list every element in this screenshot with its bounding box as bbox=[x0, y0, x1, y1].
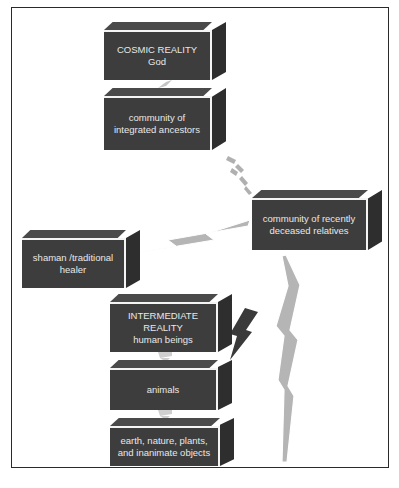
box-side bbox=[212, 22, 226, 80]
node-line-2: deceased relatives bbox=[269, 225, 348, 237]
box-side bbox=[212, 88, 226, 150]
node-shaman-healer: shaman /traditional healer bbox=[22, 230, 140, 288]
node-title: INTERMEDIATE REALITY bbox=[114, 310, 212, 334]
node-integrated-ancestors: community of integrated ancestors bbox=[104, 88, 226, 150]
node-line-2: and inanimate objects bbox=[118, 447, 210, 459]
box-side bbox=[218, 360, 232, 410]
box-face: shaman /traditional healer bbox=[22, 238, 126, 288]
box-face: community of integrated ancestors bbox=[104, 96, 212, 150]
node-subtitle: human beings bbox=[133, 334, 193, 346]
node-line-1: shaman /traditional bbox=[33, 252, 113, 264]
box-top bbox=[110, 360, 218, 368]
node-line-1: community of bbox=[129, 112, 186, 124]
box-top bbox=[110, 294, 218, 302]
box-top bbox=[104, 22, 212, 30]
box-side bbox=[218, 294, 232, 352]
node-subtitle: God bbox=[148, 56, 166, 68]
box-side bbox=[126, 230, 140, 288]
box-top bbox=[252, 190, 368, 198]
node-recently-deceased-relatives: community of recently deceased relatives bbox=[252, 190, 382, 250]
node-line-2: healer bbox=[60, 264, 86, 276]
bolt-relatives-shaman bbox=[130, 220, 250, 254]
node-earth-nature: earth, nature, plants, and inanimate obj… bbox=[110, 418, 234, 466]
box-side bbox=[220, 418, 234, 466]
box-face: community of recently deceased relatives bbox=[252, 198, 368, 250]
node-intermediate-reality: INTERMEDIATE REALITY human beings bbox=[110, 294, 232, 352]
node-animals: animals bbox=[110, 360, 232, 410]
box-face: earth, nature, plants, and inanimate obj… bbox=[110, 426, 220, 466]
box-top bbox=[104, 88, 212, 96]
bolt-intermediate-dark bbox=[230, 308, 258, 360]
node-line-1: community of recently bbox=[263, 213, 355, 225]
box-top bbox=[110, 418, 220, 426]
box-face: COSMIC REALITY God bbox=[104, 30, 212, 80]
box-side bbox=[368, 190, 382, 250]
node-title: COSMIC REALITY bbox=[117, 44, 197, 56]
node-line-1: earth, nature, plants, bbox=[120, 435, 207, 447]
bolt-relatives-earth bbox=[276, 255, 300, 462]
box-face: INTERMEDIATE REALITY human beings bbox=[110, 302, 218, 352]
box-face: animals bbox=[110, 368, 218, 410]
dashed-bolt-ancestors-relatives bbox=[226, 156, 252, 195]
node-line-2: integrated ancestors bbox=[114, 124, 200, 136]
node-line-1: animals bbox=[147, 384, 180, 396]
box-top bbox=[22, 230, 126, 238]
node-cosmic-reality: COSMIC REALITY God bbox=[104, 22, 226, 80]
